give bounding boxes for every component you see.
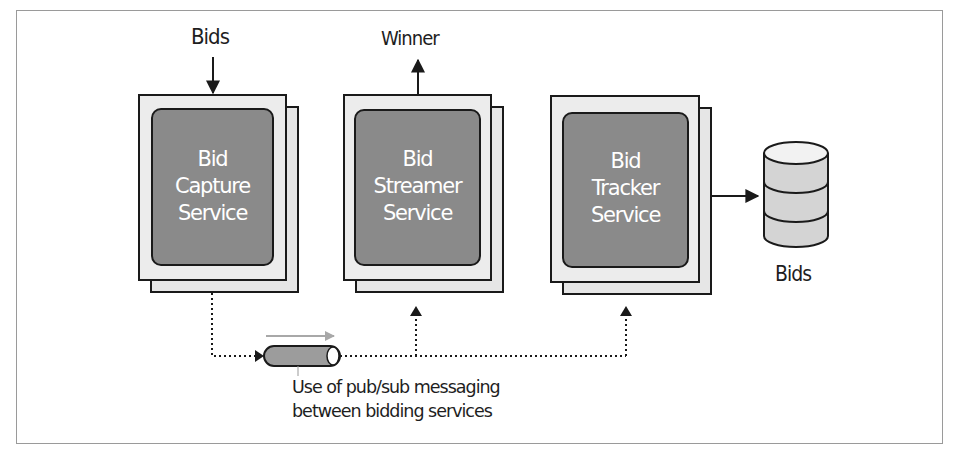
- database-label: Bids: [775, 262, 811, 286]
- bid-streamer-service-label: Bid Streamer Service: [355, 146, 480, 227]
- bids-database-icon: [764, 142, 828, 247]
- service-label-line: Streamer: [355, 173, 480, 200]
- service-label-line: Tracker: [563, 175, 688, 202]
- service-label-line: Service: [152, 200, 273, 227]
- service-label-line: Bid: [563, 148, 688, 175]
- caption-line: between bidding services: [292, 399, 500, 423]
- tracker-subscribe-arrowhead: [620, 306, 632, 316]
- service-label-line: Service: [355, 200, 480, 227]
- service-label-line: Capture: [152, 173, 273, 200]
- winner-output-label: Winner: [381, 26, 439, 50]
- pubsub-channel-pipe-icon: [264, 346, 340, 366]
- service-label-line: Service: [563, 202, 688, 229]
- bid-capture-service-label: Bid Capture Service: [152, 146, 273, 227]
- service-label-line: Bid: [152, 146, 273, 173]
- service-label-line: Bid: [355, 146, 480, 173]
- pipe-input-arrowhead: [255, 350, 264, 362]
- streamer-subscribe-arrowhead: [410, 306, 422, 316]
- bids-input-label: Bids: [191, 24, 229, 49]
- caption-line: Use of pub/sub messaging: [292, 375, 500, 399]
- bid-tracker-service-label: Bid Tracker Service: [563, 148, 688, 229]
- pubsub-caption: Use of pub/sub messaging between bidding…: [292, 375, 500, 423]
